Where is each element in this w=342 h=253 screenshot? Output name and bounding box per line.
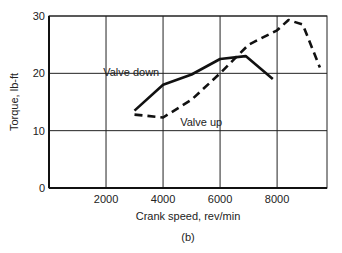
x-tick-label: 6000 [208, 193, 232, 205]
y-tick-label: 10 [33, 125, 45, 137]
series [135, 20, 320, 118]
figure-caption: (b) [181, 231, 194, 243]
valve-up-line [135, 20, 320, 118]
x-tick-label: 2000 [94, 193, 118, 205]
y-tick-label: 20 [33, 67, 45, 79]
y-axis-label: Torque, lb-ft [8, 73, 20, 131]
x-tick-label: 4000 [151, 193, 175, 205]
valve-up-annotation: Valve up [180, 116, 222, 128]
tick-labels: 20004000600080000102030 [33, 10, 290, 205]
x-tick-label: 8000 [265, 193, 289, 205]
valve-down-annotation: Valve down [103, 66, 159, 78]
torque-chart: 20004000600080000102030 Valve downValve … [0, 0, 342, 253]
y-tick-label: 30 [33, 10, 45, 22]
x-axis-label: Crank speed, rev/min [136, 210, 241, 222]
valve-down-line [135, 56, 273, 111]
y-tick-label: 0 [39, 182, 45, 194]
